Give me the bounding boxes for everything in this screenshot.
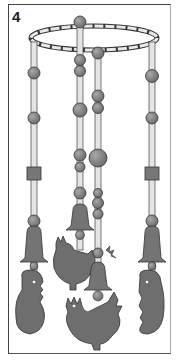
strand-right [138,42,166,334]
bell-icon [138,226,166,262]
bell-icon [66,204,94,230]
bead [28,67,40,79]
strand-left [16,42,48,334]
square-bead [27,167,41,180]
rooster-figure-icon [53,236,95,290]
bear-figure-icon [16,270,45,334]
ring-hoop [31,26,157,50]
strand-center-right [66,47,122,350]
large-bead [89,149,107,167]
square-bead [145,167,159,180]
strand-center-left [53,16,95,290]
rooster-figure-icon [66,292,122,350]
bell-icon [20,226,48,262]
bear-figure-icon [139,270,164,334]
mobile-illustration [0,0,176,363]
bead [28,215,40,227]
bead [28,112,40,124]
